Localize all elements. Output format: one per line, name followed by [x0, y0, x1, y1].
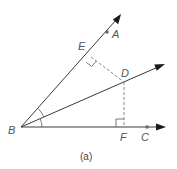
right-angle-mark-e [86, 61, 96, 66]
ray-bd [21, 64, 165, 127]
point-c [145, 125, 149, 129]
angle-arc-lower [40, 119, 42, 127]
label-a: A [111, 28, 119, 40]
angle-arc-upper [38, 108, 44, 117]
perpendicular-de [91, 57, 124, 82]
point-a [105, 30, 109, 34]
label-c: C [141, 131, 149, 143]
label-e: E [78, 40, 86, 52]
label-d: D [121, 67, 129, 79]
label-b: B [8, 124, 15, 136]
arrowhead-icon [154, 64, 165, 71]
right-angle-mark-f [116, 119, 124, 127]
figure-caption: (a) [80, 151, 92, 162]
ray-bc [21, 124, 166, 131]
angle-bisector-diagram: A B C D E F (a) [0, 0, 177, 169]
label-f: F [120, 131, 128, 143]
arrowhead-icon [156, 124, 166, 131]
